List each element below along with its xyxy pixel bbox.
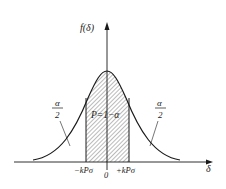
tick-origin-label: 0 <box>104 170 109 180</box>
left-tail-numerator: α <box>55 98 60 108</box>
right-tail-denominator: 2 <box>158 110 163 120</box>
right-tail-numerator: α <box>157 98 162 108</box>
y-axis-label: f(δ) <box>80 22 95 34</box>
tick-left-label: −kPσ <box>74 165 94 175</box>
left-leader-line <box>60 121 70 146</box>
y-axis-arrow-icon <box>105 22 110 30</box>
center-area-label: P=1−α <box>90 110 120 120</box>
tick-right-label: +kPσ <box>116 165 136 175</box>
normal-distribution-diagram: f(δ) δ P=1−α α 2 α 2 −kPσ 0 +kPσ <box>0 0 226 189</box>
left-tail-denominator: 2 <box>55 110 60 120</box>
right-leader-line <box>150 121 158 146</box>
x-axis-label: δ <box>206 163 211 174</box>
